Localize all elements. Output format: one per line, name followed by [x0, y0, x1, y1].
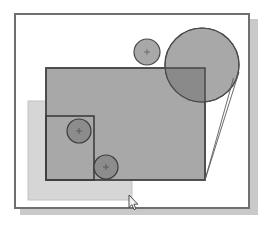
canvas-surface[interactable] [16, 15, 248, 207]
app-root [0, 0, 266, 232]
shape-layer [16, 15, 248, 207]
drawing-canvas[interactable] [14, 13, 250, 209]
